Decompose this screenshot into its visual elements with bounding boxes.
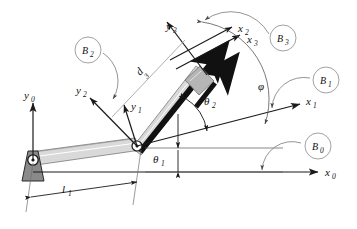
y3-sub: 3 <box>172 26 177 35</box>
y0-sub: 0 <box>31 95 35 104</box>
x3-label: x <box>246 33 252 45</box>
d3-sub: 3 <box>141 71 151 81</box>
B1-sub: 1 <box>328 80 332 89</box>
x0-label: x <box>324 166 330 178</box>
B2-sub: 2 <box>90 50 94 59</box>
theta1-sub: 1 <box>161 159 165 168</box>
y1-sub: 1 <box>138 106 142 115</box>
B3-leader <box>205 12 269 34</box>
B3-label: B <box>277 33 283 44</box>
l1-label: l <box>62 183 65 195</box>
y2-label: y <box>75 84 81 96</box>
B2-label: B <box>82 45 88 56</box>
frame-3-axes <box>167 22 240 75</box>
mechanism-schematic: B 0 B 1 B 2 B 3 x 0 y 0 x 1 y 1 x 2 y 2 … <box>0 0 357 229</box>
theta1-label: θ <box>153 153 159 165</box>
B0-sub: 0 <box>320 146 324 155</box>
x3-sub: 3 <box>253 39 258 48</box>
x2-label: x <box>237 22 243 34</box>
B0-leader <box>262 142 301 170</box>
parameter-labels: l 1 d 3 θ 1 θ 2 φ <box>62 65 264 198</box>
x1-label: x <box>305 95 311 107</box>
B1-label: B <box>320 75 326 86</box>
B0-label: B <box>312 141 318 152</box>
theta2-sub: 2 <box>212 101 216 110</box>
y3-label: y <box>165 20 171 32</box>
l1-sub: 1 <box>68 189 72 198</box>
frame-0-axes <box>33 103 318 172</box>
x0-sub: 0 <box>332 172 336 181</box>
B2-leader <box>103 53 118 99</box>
y0-label: y <box>23 89 29 101</box>
diagram-canvas: B 0 B 1 B 2 B 3 x 0 y 0 x 1 y 1 x 2 y 2 … <box>0 0 357 229</box>
link-1 <box>30 138 141 165</box>
y1-label: y <box>130 100 136 112</box>
phi-label: φ <box>258 80 264 92</box>
y2-sub: 2 <box>83 90 87 99</box>
theta2-label: θ <box>204 95 210 107</box>
B3-sub: 3 <box>284 38 289 47</box>
B1-leader <box>272 77 310 108</box>
x1-sub: 1 <box>313 101 317 110</box>
